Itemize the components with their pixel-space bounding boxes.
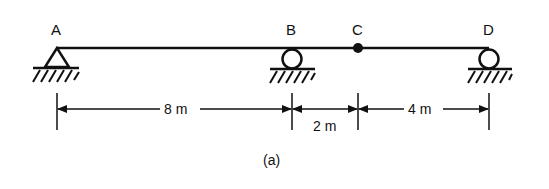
roller-support-d-icon bbox=[468, 50, 512, 84]
label-d: D bbox=[483, 21, 494, 38]
dimension-bc: 2 m bbox=[293, 109, 357, 134]
dimension-cd: 4 m bbox=[359, 101, 488, 117]
label-c: C bbox=[352, 21, 363, 38]
dimension-label-bc: 2 m bbox=[313, 118, 336, 134]
hinge-c-icon bbox=[353, 43, 363, 53]
label-b: B bbox=[286, 21, 296, 38]
label-a: A bbox=[51, 21, 61, 38]
dimension-ab: 8 m bbox=[58, 101, 291, 117]
beam-diagram: A B C D bbox=[0, 0, 549, 189]
roller-support-b-icon bbox=[270, 50, 315, 84]
dimension-label-ab: 8 m bbox=[164, 101, 187, 117]
figure-caption: (a) bbox=[263, 152, 280, 168]
dimension-label-cd: 4 m bbox=[408, 101, 431, 117]
pin-support-icon bbox=[33, 48, 79, 82]
